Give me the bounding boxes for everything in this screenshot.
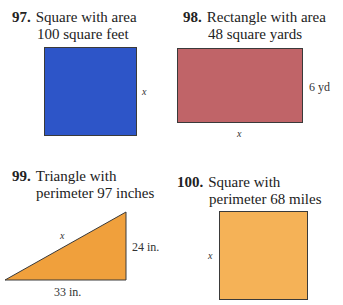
height-label: 24 in. [132, 240, 159, 255]
problem-100-label: 100.Square with perimeter 68 miles [177, 174, 321, 208]
problem-text-line2: perimeter 68 miles [177, 191, 321, 208]
base-label: 33 in. [54, 285, 81, 300]
hypotenuse-label-x: x [60, 230, 64, 241]
problem-text-line1: Square with [208, 174, 280, 190]
side-label-x: x [208, 250, 212, 261]
orange-square [219, 211, 308, 300]
orange-triangle [5, 212, 126, 280]
problem-number: 100. [177, 174, 203, 190]
